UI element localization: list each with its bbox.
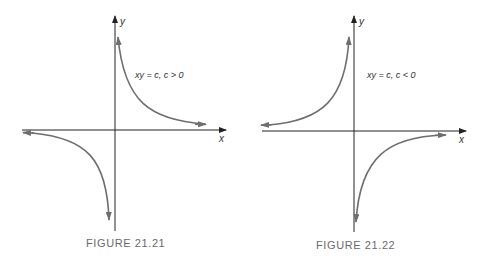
y-axis-label: y (119, 16, 126, 27)
figure-caption-21-22: FIGURE 21.22 (316, 239, 395, 251)
figure-21-21: y x xy = c, c > 0 (22, 16, 226, 231)
equation-label: xy = c, c < 0 (366, 70, 416, 80)
x-axis-label: x (218, 133, 225, 144)
figure-caption-21-21: FIGURE 21.21 (86, 237, 165, 249)
hyperbola-branch-q1 (118, 37, 205, 124)
equation-label: xy = c, c > 0 (134, 70, 184, 80)
hyperbola-branch-q3 (32, 133, 109, 220)
hyperbola-branch-q2 (268, 37, 349, 125)
figure-21-22: y x xy = c, c < 0 (261, 16, 466, 232)
arrow-left-q3 (23, 133, 34, 134)
hyperbola-branch-q4 (356, 135, 443, 222)
x-axis-label: x (458, 134, 465, 145)
diagram-canvas: y x xy = c, c > 0 y x xy = c, c < 0 (0, 0, 487, 260)
y-axis-label: y (358, 16, 365, 27)
